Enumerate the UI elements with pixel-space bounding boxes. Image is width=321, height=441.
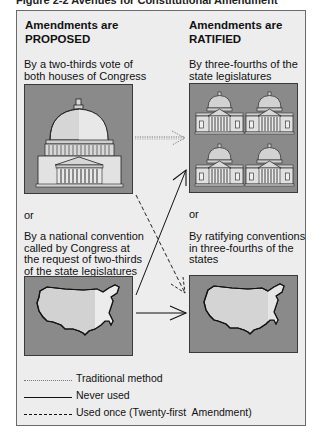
- text-line: states: [189, 254, 305, 266]
- text-line: state legislatures: [189, 71, 298, 83]
- proposed-heading-line1: Amendments are: [25, 18, 118, 32]
- dotted-line-swatch: [24, 380, 72, 381]
- dashed-line-swatch: [24, 414, 72, 415]
- solid-line-swatch: [24, 397, 72, 398]
- proposed-heading-line2: PROPOSED: [25, 32, 118, 46]
- text-line: both houses of Congress: [24, 71, 146, 83]
- us-capitol-icon: [25, 85, 134, 195]
- text-line: By ratifying conventions: [189, 231, 305, 243]
- ratified-heading-line2: RATIFIED: [189, 32, 282, 46]
- text-line: By a national convention: [24, 231, 144, 243]
- state-conventions-text: By ratifying conventions in three-fourth…: [189, 231, 305, 266]
- legend-item-never-used: Never used: [24, 389, 130, 401]
- ratified-heading: Amendments are RATIFIED: [189, 18, 282, 46]
- legend-label: Used once (Twenty-first Amendment): [76, 406, 252, 418]
- legend-item-traditional: Traditional method: [24, 372, 163, 384]
- congress-vote-text: By a two-thirds vote of both houses of C…: [24, 59, 146, 82]
- figure-title: Figure 2-2 Avenues for Constitutional Am…: [16, 0, 278, 6]
- proposed-or-label: or: [24, 210, 34, 222]
- legend-label: Never used: [76, 389, 130, 401]
- us-map-icon: [25, 277, 134, 357]
- legend-item-used-once: Used once (Twenty-first Amendment): [24, 406, 252, 418]
- proposed-heading: Amendments are PROPOSED: [25, 18, 118, 46]
- ratified-or-label: or: [189, 209, 199, 221]
- state-capitols-image: [189, 83, 298, 193]
- legend-label: Traditional method: [76, 372, 163, 384]
- text-line: the request of two-thirds: [24, 254, 144, 266]
- national-convention-text: By a national convention called by Congr…: [24, 231, 144, 277]
- state-capitols-icon: [190, 84, 299, 194]
- state-conventions-map-image: [189, 275, 298, 353]
- text-line: By a two-thirds vote of: [24, 59, 146, 71]
- ratified-heading-line1: Amendments are: [189, 18, 282, 32]
- text-line: By three-fourths of the: [189, 59, 298, 71]
- national-convention-map-image: [24, 276, 133, 356]
- state-legislatures-text: By three-fourths of the state legislatur…: [189, 59, 298, 82]
- us-capitol-image: [24, 84, 133, 194]
- us-map-icon: [190, 276, 299, 354]
